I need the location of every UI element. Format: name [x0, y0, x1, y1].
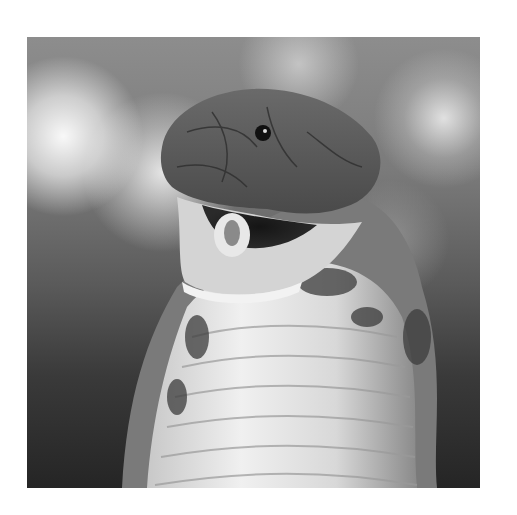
cobra-photo — [27, 37, 480, 488]
cobra-illustration — [27, 37, 480, 488]
eye — [255, 125, 271, 141]
